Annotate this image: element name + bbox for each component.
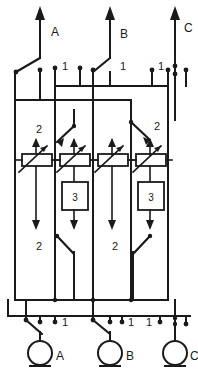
contact-node [53, 320, 58, 325]
contact-label-mid-upper-right: 2 [154, 120, 160, 132]
component-box-right: 3 [138, 166, 164, 230]
machine-label-c: C [190, 349, 198, 363]
phase-label-top-a: A [51, 25, 59, 39]
contact-node [38, 68, 43, 73]
bus-junction [129, 298, 133, 302]
machine-b: B [98, 341, 134, 366]
supply-arrow-c [170, 6, 180, 58]
contact-label-mid-upper-left: 2 [36, 123, 42, 135]
contact-label-mid-lower-left: 2 [36, 240, 42, 252]
supply-arrow-a [35, 6, 45, 58]
top-contact-group-a[interactable]: 1 [14, 58, 168, 100]
contact-label-bottom-c: 1 [146, 316, 152, 328]
contact-node [166, 68, 171, 73]
schematic-canvas: A B C 1 1 [0, 0, 198, 374]
machine-label-b: B [126, 349, 134, 363]
component-box-left: 3 [62, 166, 88, 230]
contact-node [158, 320, 163, 325]
mid-lower-contact-right[interactable]: 2 [112, 234, 152, 300]
machine-a: A [28, 341, 64, 366]
mid-upper-contact-left[interactable]: 2 [36, 110, 76, 147]
machine-label-a: A [56, 349, 64, 363]
resistor-feed-left-2 [70, 138, 78, 155]
schematic-diagram: A B C 1 1 [0, 0, 198, 374]
contact-label-bottom-a: 1 [62, 316, 68, 328]
contact-label-mid-lower-right: 2 [112, 240, 118, 252]
contact-node [184, 322, 189, 327]
variable-resistor-4 [130, 146, 172, 172]
bottom-contact-group-a[interactable]: 1 [24, 300, 69, 342]
contact-label-top-b: 1 [120, 60, 126, 72]
mid-upper-contact-right[interactable]: 2 [129, 110, 160, 145]
resistor-feed-left-1 [32, 138, 40, 155]
contact-node [108, 320, 113, 325]
resistor-feed-right-1 [108, 138, 116, 155]
contact-node [173, 322, 177, 326]
bottom-contact-group-b[interactable]: 1 [91, 300, 135, 342]
top-contact-group-b[interactable]: 1 [78, 58, 127, 100]
contact-node [150, 68, 155, 73]
contact-node [38, 320, 43, 325]
bottom-contact-group-c[interactable]: 1 [146, 300, 188, 342]
contact-node [78, 66, 83, 71]
contact-node [173, 64, 178, 69]
component-box-label-right: 3 [148, 192, 154, 203]
bus-junction [53, 298, 57, 302]
phase-label-top-c: C [184, 21, 193, 35]
contact-node [173, 72, 178, 77]
contact-label-top-c: 1 [158, 60, 164, 72]
variable-resistor-3 [92, 146, 134, 172]
variable-resistor-1 [16, 146, 58, 172]
machine-c: C [163, 341, 198, 366]
supply-arrow-b [105, 6, 115, 58]
contact-node [53, 66, 58, 71]
variable-resistor-2 [54, 146, 96, 172]
contact-node [184, 68, 189, 73]
contact-label-top-a: 1 [62, 60, 68, 72]
component-box-label-left: 3 [72, 192, 78, 203]
contact-node [120, 320, 125, 325]
phase-label-top-b: B [120, 27, 128, 41]
contact-label-bottom-b: 1 [128, 316, 134, 328]
contact-node [173, 316, 177, 320]
